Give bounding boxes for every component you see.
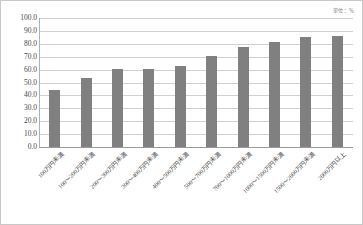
bar-slot [133,18,164,147]
y-axis-tick-label: 40.0 [1,92,37,100]
bar[interactable] [332,36,343,147]
bar[interactable] [81,78,92,147]
y-axis-tick-label: 0.0 [1,143,37,151]
y-axis-tick-label: 10.0 [1,130,37,138]
bar[interactable] [269,42,280,147]
bar-chart: 単位：％ 100.090.080.070.060.050.040.030.020… [0,0,363,225]
bar[interactable] [49,90,60,147]
y-axis-tick-label: 50.0 [1,79,37,87]
bar-slot [290,18,321,147]
y-axis-tick-label: 60.0 [1,66,37,74]
bar-slot [322,18,353,147]
x-axis-tick-label: 100万円未満 [35,150,65,180]
y-axis-tick-label: 80.0 [1,40,37,48]
y-axis-tick-label: 90.0 [1,27,37,35]
bar[interactable] [175,66,186,147]
y-axis-tick-label: 30.0 [1,105,37,113]
y-axis-tick-labels: 100.090.080.070.060.050.040.030.020.010.… [1,18,37,147]
bar-slot [259,18,290,147]
y-axis-tick-label: 100.0 [1,14,37,22]
x-axis-tick-labels: 100万円未満100〜200万円未満200〜300万円未満300〜400万円未満… [39,148,353,224]
y-axis-tick-label: 70.0 [1,53,37,61]
bar-slot [227,18,258,147]
bar[interactable] [206,56,217,147]
y-axis-tick-label: 20.0 [1,117,37,125]
bar[interactable] [238,47,249,147]
bar-slot [102,18,133,147]
bar-slot [70,18,101,147]
bar-slot [196,18,227,147]
bar-series [39,18,353,147]
bar[interactable] [143,69,154,147]
x-axis-tick-label: 2000万円以上 [316,150,348,182]
bar[interactable] [112,69,123,147]
bar-slot [39,18,70,147]
bar-slot [165,18,196,147]
bar[interactable] [300,37,311,147]
unit-label: 単位：％ [333,6,354,13]
